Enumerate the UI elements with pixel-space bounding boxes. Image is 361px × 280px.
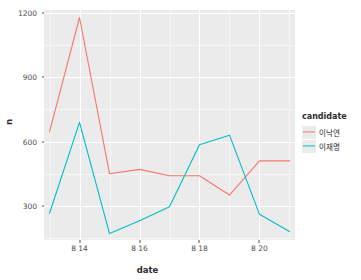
legend-title: candidate (302, 112, 360, 121)
legend-item-label: 이낙연 (319, 127, 340, 138)
x-tick-mark (79, 240, 80, 243)
series-line (50, 122, 290, 233)
legend-key-swatch (302, 126, 316, 139)
x-tick-mark (139, 240, 140, 243)
series-layer (44, 10, 295, 240)
chart-container: n 3006009001200 8 148 168 188 20 date ca… (0, 0, 361, 280)
x-tick-label: 8 18 (191, 244, 208, 253)
y-tick-label: 600 (23, 137, 40, 146)
y-axis-ticks: 3006009001200 (12, 10, 44, 240)
x-tick-label: 8 20 (251, 244, 268, 253)
legend-item[interactable]: 이재명 (302, 139, 360, 153)
legend-item-label: 이재명 (319, 141, 340, 152)
x-axis-ticks: 8 148 168 188 20 (44, 240, 295, 258)
x-axis-title-text: date (137, 265, 159, 275)
x-tick-label: 8 16 (131, 244, 148, 253)
legend-item[interactable]: 이낙연 (302, 125, 360, 139)
plot-panel (44, 10, 295, 240)
x-tick-label: 8 14 (71, 244, 88, 253)
legend: candidate 이낙연이재명 (302, 112, 360, 153)
series-line (50, 17, 290, 195)
y-tick-label: 900 (23, 73, 40, 82)
x-tick-mark (259, 240, 260, 243)
x-axis-title: date (0, 265, 295, 275)
legend-items: 이낙연이재명 (302, 125, 360, 153)
legend-key-swatch (302, 140, 316, 153)
y-tick-label: 1200 (18, 9, 40, 18)
y-tick-label: 300 (23, 201, 40, 210)
x-tick-mark (199, 240, 200, 243)
